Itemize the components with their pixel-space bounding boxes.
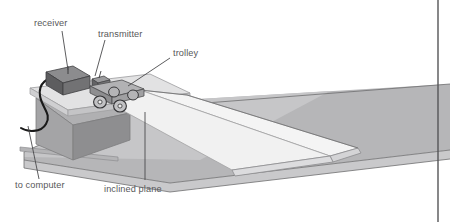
- label-trolley: trolley: [173, 48, 199, 58]
- inclined-plane-diagram: receiver transmitter trolley to computer…: [0, 0, 450, 222]
- trolley-wheel: [109, 87, 120, 97]
- label-transmitter: transmitter: [98, 29, 143, 39]
- trolley-wheel: [128, 90, 139, 100]
- label-to-computer: to computer: [15, 180, 65, 190]
- trolley-wheel: [94, 96, 107, 108]
- label-inclined-plane: inclined plane: [104, 184, 162, 194]
- figure-container: receiver transmitter trolley to computer…: [0, 0, 450, 222]
- label-receiver: receiver: [34, 18, 67, 28]
- trolley-wheel: [114, 100, 127, 112]
